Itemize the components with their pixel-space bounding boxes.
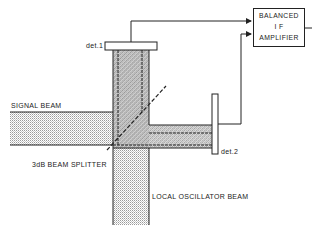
signal-beam-label: SIGNAL BEAM xyxy=(11,102,62,109)
amplifier-label-line3: AMPLIFIER xyxy=(259,35,298,42)
local-oscillator-beam xyxy=(113,50,149,225)
detector-1 xyxy=(105,42,157,50)
signal-beam xyxy=(10,112,113,145)
det2-label: det.2 xyxy=(221,148,238,155)
beam-splitter-label: 3dB BEAM SPLITTER xyxy=(32,161,107,168)
amplifier-label-line1: BALANCED xyxy=(259,13,299,20)
det1-label: det.1 xyxy=(86,42,103,49)
amplifier-label-line2: I F xyxy=(274,24,283,31)
detector-2 xyxy=(212,94,218,154)
wire-det2-to-amplifier xyxy=(218,34,251,124)
balanced-if-amplifier-box: BALANCED I F AMPLIFIER xyxy=(253,8,305,47)
lo-beam-label: LOCAL OSCILLATOR BEAM xyxy=(152,193,248,200)
wire-det1-to-amplifier xyxy=(131,21,251,42)
